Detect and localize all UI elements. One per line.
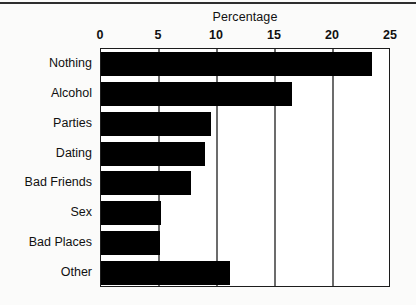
y-axis-category-labels: NothingAlcoholPartiesDatingBad FriendsSe… (0, 48, 96, 287)
x-tick-label-0: 0 (97, 28, 104, 42)
x-axis-tick-labels: 0510152025 (0, 28, 416, 45)
bar-nothing (101, 52, 372, 76)
bar-parties (101, 112, 211, 136)
chart-title: Percentage (100, 10, 390, 24)
y-label-sex: Sex (70, 205, 92, 219)
x-tick-label-5: 5 (155, 28, 162, 42)
x-tick-label-10: 10 (209, 28, 223, 42)
y-label-nothing: Nothing (49, 56, 92, 70)
y-label-dating: Dating (56, 146, 92, 160)
bar-dating (101, 142, 205, 166)
y-label-bad-places: Bad Places (29, 235, 92, 249)
y-label-other: Other (61, 265, 92, 279)
y-label-parties: Parties (53, 116, 92, 130)
bar-bad-places (101, 231, 160, 255)
bars-layer (101, 49, 389, 286)
x-tick-label-20: 20 (325, 28, 339, 42)
bar-bad-friends (101, 171, 191, 195)
top-divider-rule (0, 2, 416, 4)
x-tick-label-15: 15 (267, 28, 281, 42)
x-tick-label-25: 25 (383, 28, 397, 42)
y-label-bad-friends: Bad Friends (25, 175, 92, 189)
bar-chart-figure: Percentage 0510152025 NothingAlcoholPart… (0, 0, 416, 305)
bar-sex (101, 201, 161, 225)
y-label-alcohol: Alcohol (51, 86, 92, 100)
bar-alcohol (101, 82, 292, 106)
plot-area (100, 48, 390, 287)
bar-other (101, 261, 230, 285)
